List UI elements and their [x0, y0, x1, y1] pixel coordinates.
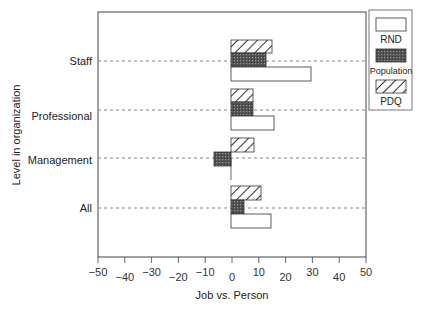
x-axis-ticks	[98, 257, 366, 263]
legend-label-rnd: RND	[380, 34, 402, 45]
x-tick-label: −30	[142, 266, 161, 278]
bar-management-pdq	[231, 138, 254, 152]
x-tick-label: −50	[89, 266, 108, 278]
x-tick-label: 30	[306, 266, 318, 278]
legend-label-pdq: PDQ	[380, 96, 402, 107]
legend-swatch-population	[376, 49, 406, 62]
bar-staff-rnd	[231, 67, 311, 81]
x-axis-title: Job vs. Person	[196, 289, 269, 301]
bar-all-population	[231, 200, 244, 214]
bar-all-pdq	[231, 186, 261, 200]
bar-management-population	[214, 152, 231, 166]
category-label-management: Management	[28, 154, 92, 166]
x-tick-label: 10	[253, 266, 265, 278]
x-tick-label: 20	[279, 271, 291, 283]
bar-staff-population	[231, 53, 266, 67]
x-tick-label: 50	[360, 266, 372, 278]
x-tick-label: −20	[169, 271, 188, 283]
bar-professional-rnd	[231, 116, 274, 130]
x-tick-label: 0	[229, 271, 235, 283]
category-label-staff: Staff	[70, 55, 93, 67]
bar-staff-pdq	[231, 40, 272, 53]
x-tick-label: 40	[333, 271, 345, 283]
y-axis-title: Level in organization	[10, 85, 22, 186]
legend: RND Population PDQ	[369, 10, 412, 110]
bar-all-rnd	[231, 214, 271, 228]
x-tick-label: −40	[115, 271, 134, 283]
legend-label-population: Population	[370, 66, 413, 76]
category-label-all: All	[80, 202, 92, 214]
legend-swatch-rnd	[376, 18, 406, 31]
bar-professional-population	[231, 102, 253, 116]
bar-professional-pdq	[231, 89, 253, 102]
chart-canvas: Staff Professional Management All Level …	[0, 0, 426, 310]
legend-swatch-pdq	[376, 80, 406, 93]
x-tick-label: −10	[196, 266, 215, 278]
category-label-professional: Professional	[31, 110, 92, 122]
